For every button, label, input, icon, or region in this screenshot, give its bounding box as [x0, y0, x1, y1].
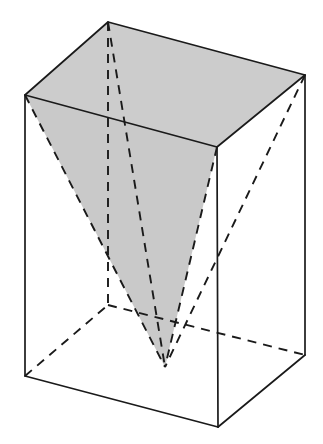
edge-bottom-front-right	[218, 355, 305, 427]
hidden-edge-bottom-left-back	[25, 305, 108, 376]
edge-bottom-left-front	[25, 376, 218, 427]
shaded-faces-group	[25, 22, 305, 367]
prism-pyramid-diagram	[0, 0, 323, 444]
geometry-figure: A wireframe rectangular prism drawn in o…	[0, 0, 323, 444]
edge-front-vertical	[217, 147, 218, 427]
